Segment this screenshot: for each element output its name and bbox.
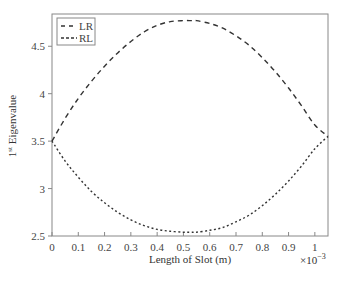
x-axis-ticks: 00.10.20.30.40.50.60.70.80.91: [49, 232, 317, 253]
x-tick-label: 0.6: [203, 241, 217, 253]
y-axis-label: 1st Eigenvalue: [6, 95, 18, 158]
x-tick-label: 0.9: [282, 241, 296, 253]
plot-area: [52, 14, 328, 236]
y-axis-ticks: 2.533.544.5: [31, 40, 52, 242]
legend-label-lr: LR: [79, 20, 94, 32]
x-tick-label: 0.2: [98, 241, 112, 253]
x-tick-label: 0.1: [71, 241, 85, 253]
y-tick-label: 2.5: [31, 230, 45, 242]
y-tick-label: 4.5: [31, 40, 45, 52]
x-axis-label: Length of Slot (m): [149, 253, 232, 266]
y-tick-label: 3: [40, 183, 46, 195]
y-tick-label: 4: [40, 88, 46, 100]
x-tick-label: 0.8: [255, 241, 269, 253]
x-tick-label: 0.5: [177, 241, 191, 253]
plot-frame: [52, 14, 328, 236]
x-tick-label: 0: [49, 241, 55, 253]
chart: 2.533.544.5 00.10.20.30.40.50.60.70.80.9…: [0, 0, 343, 287]
series-lines: [52, 20, 328, 232]
x-tick-label: 0.7: [229, 241, 243, 253]
x-tick-label: 0.3: [124, 241, 138, 253]
legend: LRRL: [57, 18, 95, 45]
series-line-rl: [52, 136, 328, 232]
legend-label-rl: RL: [79, 32, 93, 44]
x-tick-label: 0.4: [150, 241, 164, 253]
y-tick-label: 3.5: [31, 135, 45, 147]
x-axis-multiplier: ×10−3: [300, 252, 326, 266]
